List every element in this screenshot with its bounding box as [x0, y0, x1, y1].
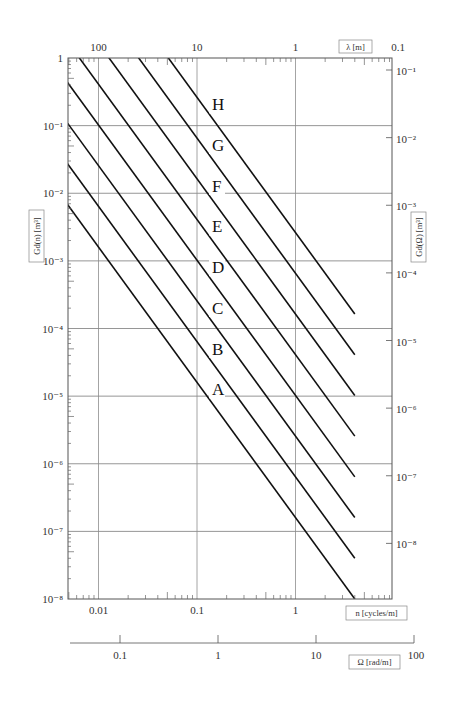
right-tick-label: 10⁻⁷ [396, 471, 417, 483]
y-tick-label: 10⁻⁵ [42, 390, 63, 402]
class-label-f: F [212, 177, 221, 196]
right-tick-label: 10⁻³ [396, 200, 417, 212]
top-tick-label: 10 [192, 41, 204, 53]
omega-tick-label: 1 [215, 649, 221, 661]
class-label-b: B [212, 340, 223, 359]
class-label-a: A [212, 380, 225, 399]
x-axis-title: n [cycles/m] [346, 606, 407, 620]
class-line-d [59, 71, 355, 477]
right-tick-label: 10⁻² [396, 133, 417, 145]
svg-text:Gd(n) [m³]: Gd(n) [m³] [32, 217, 42, 254]
omega-tick-label: 0.1 [113, 649, 127, 661]
top-axis-title: λ [m] [339, 40, 372, 53]
class-label-g: G [212, 136, 224, 155]
right-tick-label: 10⁻⁶ [396, 403, 417, 415]
top-tick-label: 0.1 [391, 41, 405, 53]
class-line-g [59, 0, 355, 355]
y-tick-label: 10⁻⁴ [42, 323, 63, 335]
class-lines [59, 0, 355, 599]
y-tick-label: 10⁻⁸ [42, 593, 63, 605]
class-line-e [59, 30, 355, 436]
svg-text:λ [m]: λ [m] [346, 42, 365, 52]
y-tick-label: 1 [58, 52, 64, 64]
road-roughness-chart: 0.010.111001010.1110⁻¹10⁻²10⁻³10⁻⁴10⁻⁵10… [0, 0, 450, 707]
top-tick-label: 1 [293, 41, 299, 53]
right-axis-title: Gd(Ω) [m³] [411, 212, 426, 262]
svg-text:Ω [rad/m]: Ω [rad/m] [358, 657, 392, 667]
axis-ticks [68, 58, 414, 643]
y-tick-label: 10⁻⁶ [42, 458, 63, 470]
y-tick-label: 10⁻⁷ [42, 525, 63, 537]
svg-text:Gd(Ω) [m³]: Gd(Ω) [m³] [414, 217, 424, 256]
class-label-h: H [212, 95, 224, 114]
svg-text:n [cycles/m]: n [cycles/m] [355, 608, 397, 618]
class-line-f [59, 0, 355, 395]
class-label-e: E [212, 217, 222, 236]
x-tick-label: 1 [293, 604, 299, 616]
omega-tick-label: 10 [311, 649, 323, 661]
x-tick-label: 0.01 [89, 604, 108, 616]
class-label-d: D [212, 258, 224, 277]
class-line-b [59, 153, 355, 559]
omega-axis-title: Ω [rad/m] [349, 655, 400, 669]
right-tick-label: 10⁻⁵ [396, 336, 417, 348]
y-tick-label: 10⁻¹ [43, 120, 63, 132]
right-tick-label: 10⁻⁴ [396, 268, 417, 280]
top-tick-label: 100 [90, 41, 107, 53]
class-line-c [59, 112, 355, 518]
right-tick-label: 10⁻⁸ [396, 538, 417, 550]
y-tick-label: 10⁻² [43, 187, 64, 199]
x-tick-label: 0.1 [190, 604, 204, 616]
right-tick-label: 10⁻¹ [396, 65, 416, 77]
left-axis-title: Gd(n) [m³] [29, 210, 44, 262]
grid-lines [68, 58, 392, 599]
y-tick-label: 10⁻³ [43, 255, 64, 267]
class-label-c: C [212, 299, 223, 318]
omega-tick-label: 100 [408, 649, 425, 661]
